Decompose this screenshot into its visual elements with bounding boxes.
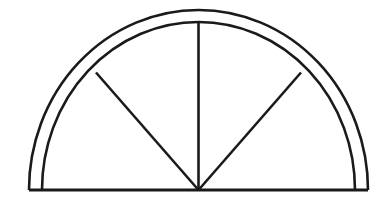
right-spoke	[199, 73, 302, 191]
arch-diagram: Semicircular fanlight arch Line drawing …	[0, 0, 387, 209]
left-spoke	[96, 73, 199, 191]
figure-canvas: Semicircular fanlight arch Line drawing …	[0, 0, 387, 209]
